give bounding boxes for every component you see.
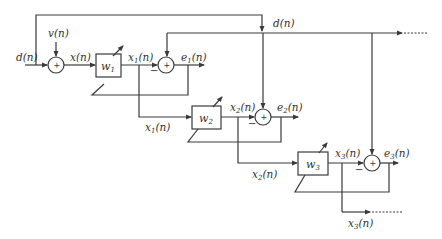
input-d-label: d(n) (16, 51, 38, 63)
desired-bus: d(n) (167, 17, 428, 154)
summer3-plus: + (370, 159, 377, 168)
x2-label: x2(n) (230, 101, 255, 115)
e2-label: e2(n) (277, 101, 303, 115)
e3-label: e3(n) (384, 147, 410, 161)
x-label: x(n) (70, 51, 91, 63)
input-summer-plus: + (54, 61, 61, 70)
summer2-plus: + (261, 113, 268, 122)
cascaded-adaptive-filter-diagram: d(n) v(n) + x(n) d(n) w1 x1(n) − + (0, 0, 442, 239)
x3-branch-label: x3(n) (348, 217, 373, 231)
summer1-minus: − (150, 65, 158, 76)
e1-label: e1(n) (181, 51, 207, 65)
x2-branch-label: x2(n) (252, 168, 277, 182)
x1-branch-label-text: x1(n) (145, 121, 170, 135)
summer1-plus: + (164, 61, 171, 70)
stage-3: w3 x3(n) − + e3(n) x3(n) (295, 143, 410, 231)
x1-label: x1(n) (128, 51, 153, 65)
d-bus-label: d(n) (273, 17, 295, 29)
summer3-minus: − (355, 164, 363, 175)
stage-2: w2 x2(n) − + e2(n) x2(n) (188, 97, 303, 182)
input-section: d(n) v(n) + x(n) (16, 15, 262, 73)
noise-v-label: v(n) (48, 27, 69, 39)
stage-1: w1 x1(n) − + e1(n) x1(n) (92, 46, 207, 135)
x3-label: x3(n) (335, 147, 360, 161)
